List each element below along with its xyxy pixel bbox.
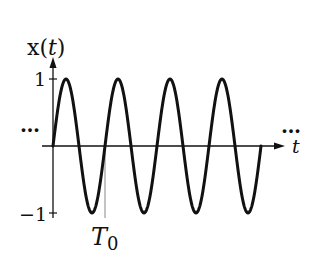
ellipsis-right: … <box>281 114 301 138</box>
x-axis-arrow-icon <box>274 143 285 150</box>
ellipsis-left: … <box>20 113 40 137</box>
y-axis-label: x(t) <box>27 35 65 60</box>
period-label: T0 <box>91 223 118 254</box>
signal-diagram: x(t) 1 −1 t T0 … … <box>0 0 318 262</box>
tick-label-1: 1 <box>34 68 46 90</box>
x-axis-label: t <box>292 135 300 157</box>
tick-label-minus-1: −1 <box>19 203 47 225</box>
